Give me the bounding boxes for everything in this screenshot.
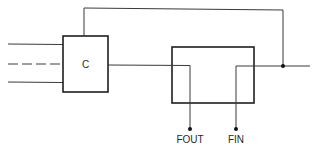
fin-label: FIN — [228, 134, 244, 145]
right-block — [172, 47, 254, 103]
fout-terminal-dot — [188, 127, 192, 131]
fout-label: FOUT — [176, 134, 203, 145]
fin-wire — [236, 66, 310, 129]
block-c-label: C — [82, 59, 89, 70]
input-line-3 — [8, 82, 63, 83]
feedback-wire — [84, 8, 283, 66]
junction-dot — [281, 64, 285, 68]
input-line-1 — [8, 44, 63, 45]
fout-wire — [108, 65, 190, 129]
fin-terminal-dot — [234, 127, 238, 131]
block-diagram: C FOUT FIN — [0, 0, 315, 152]
